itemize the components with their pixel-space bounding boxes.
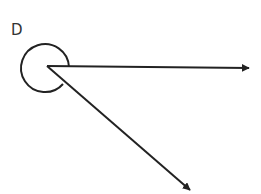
- angle-diagram: D: [0, 0, 261, 194]
- angle-arc: [21, 44, 69, 92]
- vertex-label: D: [11, 21, 23, 39]
- diagonal-ray: [47, 66, 190, 190]
- horizontal-ray: [47, 66, 249, 68]
